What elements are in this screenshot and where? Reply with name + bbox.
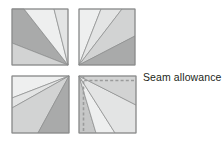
bottom-right-block — [79, 76, 136, 133]
bottom-left-block — [12, 76, 69, 133]
piecing-diagram: Seam allowance — [0, 0, 224, 141]
top-right-block — [79, 9, 135, 65]
top-left-block — [12, 9, 68, 65]
seam-allowance-label: Seam allowance — [143, 71, 221, 84]
